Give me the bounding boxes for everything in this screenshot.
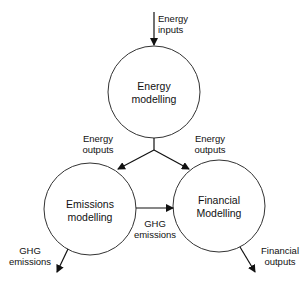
ghg-to-financial-line1: GHG — [131, 218, 179, 229]
ghg-to-financial-line2: emissions — [131, 229, 179, 240]
energy-outputs-right-label: Energy outputs — [190, 133, 230, 155]
energy-outputs-right-line2: outputs — [190, 144, 230, 155]
energy-outputs-left-arrow — [118, 150, 154, 169]
financial-modelling-label: Financial Modelling — [186, 194, 252, 220]
financial-out-arrow — [240, 247, 255, 272]
ghg-to-financial-label: GHG emissions — [131, 218, 179, 240]
energy-modelling-line1: Energy — [124, 80, 184, 93]
energy-outputs-right-arrow — [154, 150, 189, 169]
energy-modelling-label: Energy modelling — [124, 80, 184, 106]
energy-inputs-line1: Energy — [158, 13, 188, 24]
energy-modelling-line2: modelling — [124, 93, 184, 106]
emissions-modelling-line1: Emissions — [57, 198, 123, 211]
diagram-canvas — [0, 0, 308, 285]
ghg-out-arrow — [57, 249, 68, 272]
energy-outputs-left-line2: outputs — [78, 144, 118, 155]
ghg-out-label: GHG emissions — [5, 245, 55, 267]
financial-out-line1: Financial — [255, 245, 305, 256]
energy-outputs-left-label: Energy outputs — [78, 133, 118, 155]
ghg-out-line2: emissions — [5, 256, 55, 267]
financial-modelling-line1: Financial — [186, 194, 252, 207]
energy-inputs-line2: inputs — [158, 24, 188, 35]
emissions-modelling-line2: modelling — [57, 211, 123, 224]
financial-out-label: Financial outputs — [255, 245, 305, 267]
financial-out-line2: outputs — [255, 256, 305, 267]
financial-modelling-line2: Modelling — [186, 207, 252, 220]
ghg-out-line1: GHG — [5, 245, 55, 256]
emissions-modelling-label: Emissions modelling — [57, 198, 123, 224]
energy-inputs-label: Energy inputs — [158, 13, 188, 35]
energy-outputs-right-line1: Energy — [190, 133, 230, 144]
energy-outputs-left-line1: Energy — [78, 133, 118, 144]
